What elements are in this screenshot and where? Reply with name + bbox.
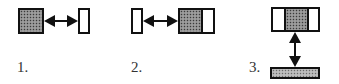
figure-label: 2.: [131, 60, 142, 75]
double-arrow-vertical-icon: [288, 32, 302, 67]
filled-part: [284, 9, 309, 30]
split-block: [271, 7, 320, 32]
split-block: [178, 8, 215, 34]
figure-label: 1.: [17, 60, 28, 75]
filled-block: [18, 8, 44, 34]
empty-block: [78, 8, 90, 34]
filled-bar: [270, 67, 320, 79]
double-arrow-horizontal-icon: [143, 14, 178, 28]
empty-block: [131, 8, 143, 34]
figure-label: 3.: [249, 60, 260, 75]
double-arrow-horizontal-icon: [44, 14, 78, 28]
filled-part: [180, 10, 203, 32]
